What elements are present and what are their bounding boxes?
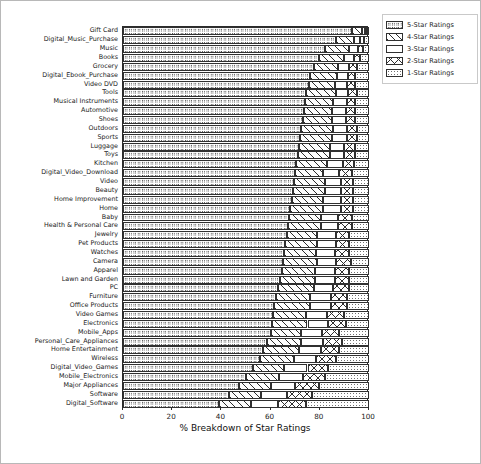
bar-row (123, 311, 367, 319)
bar-segment (335, 249, 350, 257)
bar-segment (123, 284, 278, 292)
bar-segment (363, 45, 369, 53)
bar-row (123, 231, 367, 239)
bar-segment (123, 249, 284, 257)
bar-segment (282, 267, 315, 275)
bar-segment (288, 222, 321, 230)
bar-segment (123, 160, 296, 168)
bar-segment (284, 364, 307, 372)
bar-segment (315, 267, 335, 275)
bar-segment (278, 400, 306, 408)
y-tick-label: Jewelry (95, 230, 118, 238)
bar-segment (332, 107, 346, 115)
bar-row (123, 346, 367, 354)
bar-segment (123, 391, 229, 399)
bar-segment (352, 27, 362, 35)
bar-segment (333, 284, 349, 292)
bar-segment (328, 320, 345, 328)
legend-label: 1-Star Ratings (407, 69, 454, 77)
x-tick-label: 0 (120, 412, 125, 421)
bar-segment (347, 81, 356, 89)
bar-segment (253, 364, 284, 372)
bar-row (123, 364, 367, 372)
legend-label: 2-Star Ratings (407, 57, 454, 65)
bar-row (123, 249, 367, 257)
bar-segment (123, 222, 288, 230)
bar-segment (123, 302, 274, 310)
bar-segment (123, 355, 260, 363)
bar-segment (347, 302, 369, 310)
bar-row (123, 320, 367, 328)
bar-segment (355, 81, 369, 89)
bar-segment (272, 320, 308, 328)
bar-row (123, 160, 367, 168)
y-tick-label: Automotive (81, 106, 118, 114)
x-tick-mark (220, 407, 221, 410)
bar-segment (308, 320, 329, 328)
bar-row (123, 134, 367, 142)
bar-segment (344, 54, 354, 62)
bar-segment (271, 382, 296, 390)
bar-segment (295, 382, 318, 390)
bar-row (123, 27, 367, 35)
bar-segment (336, 89, 348, 97)
bar-segment (123, 311, 273, 319)
bar-segment (219, 400, 251, 408)
bar-segment (331, 293, 347, 301)
bar-segment (284, 249, 316, 257)
bar-segment (367, 27, 369, 35)
y-tick-label: Baby (102, 213, 118, 221)
legend-label: 3-Star Ratings (407, 45, 454, 53)
bar-segment (289, 214, 321, 222)
bar-segment (229, 391, 261, 399)
bar-segment (299, 143, 330, 151)
bar-segment (123, 196, 292, 204)
bar-segment (321, 346, 339, 354)
bar-segment (123, 45, 325, 53)
bar-row (123, 72, 367, 80)
bar-segment (300, 134, 332, 142)
bar-row (123, 54, 367, 62)
bar-segment (123, 169, 295, 177)
bar-segment (123, 178, 294, 186)
bar-segment (123, 329, 271, 337)
bar-segment (123, 338, 267, 346)
bar-segment (123, 98, 305, 106)
bar-segment (123, 151, 298, 159)
bar-segment (123, 107, 304, 115)
legend-swatch (386, 45, 403, 53)
bar-segment (349, 231, 369, 239)
bar-segment (339, 169, 351, 177)
bar-segment (353, 205, 369, 213)
bar-segment (353, 187, 369, 195)
bar-segment (123, 63, 314, 71)
legend-label: 5-Star Ratings (407, 21, 454, 29)
bar-segment (348, 72, 355, 80)
bar-segment (310, 302, 331, 310)
bar-segment (338, 63, 349, 71)
bar-segment (330, 151, 345, 159)
bar-segment (304, 107, 332, 115)
bar-segment (336, 36, 354, 44)
legend-swatch (386, 21, 403, 29)
bar-row (123, 267, 367, 275)
bar-row (123, 373, 367, 381)
y-tick-label: Gift Card (90, 26, 118, 34)
bar-segment (360, 54, 369, 62)
bar-segment (349, 276, 369, 284)
bar-segment (338, 214, 352, 222)
bar-segment (347, 125, 357, 133)
bar-segment (316, 249, 334, 257)
bar-segment (349, 240, 369, 248)
y-tick-label: Shoes (99, 115, 118, 123)
bar-segment (303, 116, 333, 124)
bar-segment (260, 355, 294, 363)
bar-segment (251, 400, 278, 408)
bar-segment (319, 54, 345, 62)
bar-segment (323, 169, 339, 177)
bar-segment (317, 258, 335, 266)
y-tick-label: Home Improvement (54, 195, 118, 203)
bar-segment (278, 284, 314, 292)
bar-segment (294, 178, 325, 186)
bar-segment (327, 160, 343, 168)
